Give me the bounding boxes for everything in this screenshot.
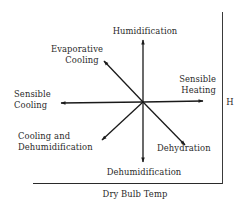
evaporative-cooling-arrow <box>104 61 143 102</box>
label-line: Dehydration <box>157 143 211 153</box>
y-axis-label-text: H <box>226 97 233 107</box>
label-sensible-heating: Sensible Heating <box>160 74 216 96</box>
dehydration-arrow <box>143 102 185 145</box>
x-axis-label-text: Dry Bulb Temp <box>103 189 168 199</box>
sensible-heating-arrow <box>143 101 203 102</box>
label-line: Cooling and <box>18 131 108 142</box>
psychrometric-process-diagram: Humidification Evaporative Cooling Sensi… <box>0 0 245 204</box>
label-line: Humidification <box>113 26 178 36</box>
label-line: Dehumidification <box>107 167 182 177</box>
label-cooling-and-dehumidification: Cooling and Dehumidification <box>18 131 108 153</box>
label-line: Cooling <box>14 100 64 111</box>
cooling-dehumidification-arrow <box>102 102 143 140</box>
label-line: Sensible <box>14 89 64 100</box>
label-humidification: Humidification <box>106 26 184 37</box>
label-dehumidification: Dehumidification <box>98 167 190 178</box>
label-line: Evaporative <box>44 44 110 55</box>
label-line: Sensible <box>160 74 216 85</box>
sensible-cooling-arrow <box>61 102 143 103</box>
label-line: Cooling <box>44 55 110 66</box>
label-line: Dehumidification <box>18 142 108 153</box>
y-axis-label: H <box>224 97 236 108</box>
label-dehydration: Dehydration <box>157 143 221 154</box>
label-line: Heating <box>160 85 216 96</box>
x-axis-label: Dry Bulb Temp <box>80 189 190 200</box>
label-evaporative-cooling: Evaporative Cooling <box>44 44 110 66</box>
label-sensible-cooling: Sensible Cooling <box>14 89 64 111</box>
